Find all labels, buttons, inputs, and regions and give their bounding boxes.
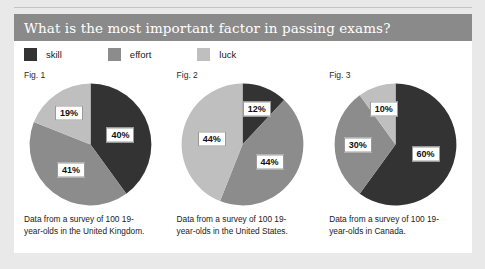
pie-value-label-luck: 10%: [370, 101, 398, 116]
legend-item-luck: luck: [197, 48, 236, 61]
content-panel: What is the most important factor in pas…: [14, 14, 472, 253]
legend-swatch-luck: [197, 48, 210, 61]
chart-cell-fig-3: Fig. 3 60%30%10% Data from a survey of 1…: [319, 70, 472, 237]
legend-item-skill: skill: [24, 48, 62, 61]
legend-label-luck: luck: [219, 49, 236, 60]
page-title: What is the most important factor in pas…: [24, 20, 391, 36]
pie-svg-fig-1: [29, 83, 152, 206]
fig-label-3: Fig. 3: [329, 70, 464, 82]
pie-chart-fig-3: 60%30%10%: [334, 83, 457, 206]
fig-label-2: Fig. 2: [177, 70, 312, 82]
chart-cell-fig-1: Fig. 1 40%41%19% Data from a survey of 1…: [14, 70, 167, 237]
chart-legend: skill effort luck: [24, 48, 282, 61]
legend-swatch-skill: [24, 48, 37, 61]
legend-item-effort: effort: [108, 48, 151, 61]
caption-fig-3: Data from a survey of 100 19-year-olds i…: [327, 214, 464, 237]
fig-label-1: Fig. 1: [24, 70, 159, 82]
pie-value-label-effort: 44%: [256, 154, 284, 169]
question-title-bar: What is the most important factor in pas…: [14, 14, 472, 41]
caption-fig-2: Data from a survey of 100 19-year-olds i…: [175, 214, 312, 237]
legend-label-skill: skill: [46, 49, 62, 60]
pie-value-label-skill: 12%: [243, 102, 271, 117]
pie-value-label-skill: 40%: [106, 127, 134, 142]
pie-chart-fig-2: 12%44%44%: [181, 83, 304, 206]
pie-value-label-luck: 19%: [55, 106, 83, 121]
pie-charts-row: Fig. 1 40%41%19% Data from a survey of 1…: [14, 70, 472, 237]
pie-value-label-skill: 60%: [412, 147, 440, 162]
chart-cell-fig-2: Fig. 2 12%44%44% Data from a survey of 1…: [167, 70, 320, 237]
pie-value-label-effort: 41%: [57, 162, 85, 177]
caption-fig-1: Data from a survey of 100 19-year-olds i…: [22, 214, 159, 237]
legend-swatch-effort: [108, 48, 121, 61]
top-divider-rule: [14, 7, 472, 8]
legend-label-effort: effort: [130, 49, 151, 60]
pie-chart-fig-1: 40%41%19%: [29, 83, 152, 206]
pie-value-label-luck: 44%: [198, 131, 226, 146]
pie-value-label-effort: 30%: [344, 137, 372, 152]
